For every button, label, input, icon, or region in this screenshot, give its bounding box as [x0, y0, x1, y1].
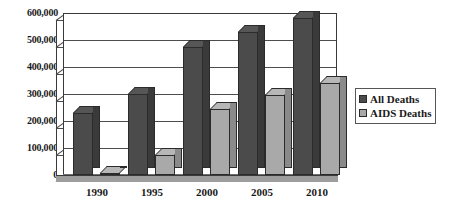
bar-front-face: [210, 109, 230, 175]
y-axis-tick-label: 300,000: [27, 88, 58, 99]
bar-aids-deaths-1995: [155, 155, 175, 175]
y-axis-tick-label: 400,000: [27, 61, 58, 72]
bar-front-face: [293, 18, 313, 175]
y-axis-tick-label: 600,000: [27, 7, 58, 18]
x-axis-tick-label-2010: 2010: [291, 186, 343, 198]
x-axis-tick-label-1995: 1995: [126, 186, 178, 198]
bar-front-face: [265, 95, 285, 175]
bar-side-face: [120, 166, 127, 168]
bar-all-deaths-2005: [238, 32, 258, 175]
bar-side-face: [285, 88, 292, 168]
bar-aids-deaths-2000: [210, 109, 230, 175]
bar-side-face: [313, 11, 320, 168]
x-axis-tick-label-2000: 2000: [181, 186, 233, 198]
bar-aids-deaths-2010: [320, 83, 340, 175]
legend-item-aids-deaths: AIDS Deaths: [359, 106, 431, 120]
bar-side-face: [340, 76, 347, 168]
legend-item-all-deaths: All Deaths: [359, 92, 431, 106]
y-axis-tick-label: 200,000: [27, 115, 58, 126]
bar-aids-deaths-2005: [265, 95, 285, 175]
bar-chart: 600,000 500,000 400,000 300,000 200,000 …: [0, 0, 453, 211]
bar-front-face: [73, 113, 93, 175]
bar-front-face: [183, 47, 203, 175]
bar-front-face: [100, 173, 120, 175]
bar-front-face: [320, 83, 340, 175]
bar-front-face: [238, 32, 258, 175]
bar-all-deaths-2010: [293, 18, 313, 175]
bar-aids-deaths-1990: [100, 173, 120, 175]
bar-side-face: [203, 40, 210, 168]
bar-all-deaths-1995: [128, 94, 148, 175]
bar-side-face: [175, 148, 182, 168]
bar-side-face: [93, 106, 100, 168]
chart-legend: All Deaths AIDS Deaths: [355, 88, 436, 124]
bar-front-face: [155, 155, 175, 175]
legend-label-aids-deaths: AIDS Deaths: [370, 107, 431, 119]
plot-floor-front: [56, 175, 338, 182]
dark-swatch-icon: [359, 95, 367, 103]
y-axis-tick-label: 500,000: [27, 34, 58, 45]
legend-label-all-deaths: All Deaths: [370, 93, 419, 105]
x-axis-tick-label-1990: 1990: [71, 186, 123, 198]
bar-all-deaths-2000: [183, 47, 203, 175]
light-swatch-icon: [359, 109, 367, 117]
bar-side-face: [148, 87, 155, 168]
bar-all-deaths-1990: [73, 113, 93, 175]
bar-side-face: [230, 102, 237, 168]
y-axis-tick-label: 100,000: [27, 142, 58, 153]
x-axis-tick-label-2005: 2005: [236, 186, 288, 198]
bar-front-face: [128, 94, 148, 175]
bar-side-face: [258, 25, 265, 168]
